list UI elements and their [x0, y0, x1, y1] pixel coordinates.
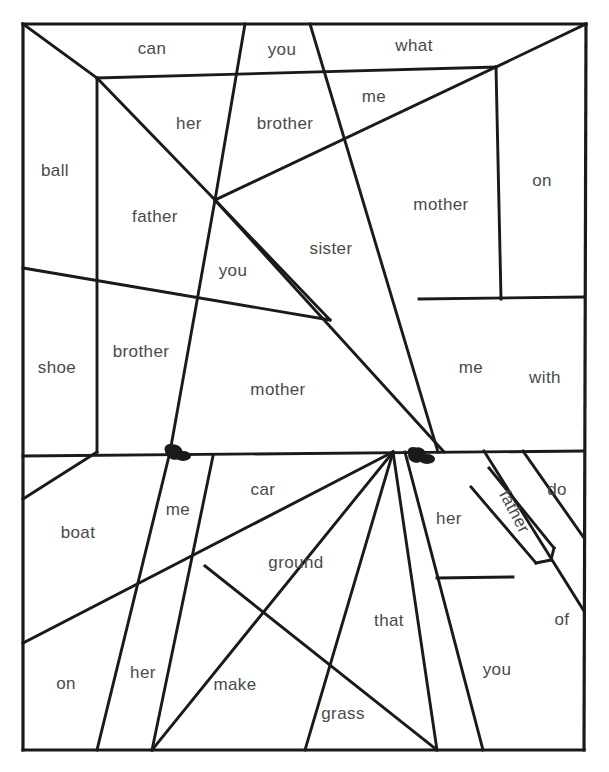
- grid-line-vert-brother2: [170, 200, 215, 452]
- word-cell-grass[interactable]: grass: [321, 704, 365, 724]
- word-cell-her-low2[interactable]: her: [130, 663, 156, 683]
- word-cell-me-lower[interactable]: me: [166, 500, 190, 520]
- grid-line-border-right: [584, 24, 586, 750]
- grid-line-horiz-right: [419, 297, 584, 299]
- word-cell-her-top[interactable]: her: [176, 114, 202, 134]
- word-cell-father1[interactable]: father: [132, 207, 178, 227]
- grid-line-tl-diagonal: [23, 24, 97, 78]
- word-cell-ball[interactable]: ball: [41, 161, 69, 181]
- grid-line-tl-diag-ext: [97, 78, 215, 200]
- word-cell-you-top[interactable]: you: [268, 40, 297, 60]
- grid-line-vert-mid-on: [496, 67, 501, 299]
- word-cell-her-low1[interactable]: her: [436, 509, 462, 529]
- word-cell-what[interactable]: what: [395, 36, 433, 56]
- grid-line-low-of-div: [484, 451, 584, 611]
- grid-line-horiz-mid: [23, 451, 584, 456]
- word-cell-make[interactable]: make: [213, 675, 256, 695]
- grid-line-low-her-right: [405, 452, 483, 750]
- word-cell-me-right[interactable]: me: [459, 358, 483, 378]
- grid-line-sister-right: [215, 200, 444, 452]
- worksheet-page: canyouwhatmeherbrotherballonmotherfather…: [0, 0, 609, 772]
- ink-blob-right: [406, 445, 435, 465]
- word-cell-me-top[interactable]: me: [362, 87, 386, 107]
- word-cell-sister[interactable]: sister: [309, 239, 352, 259]
- grid-line-low-that-div: [393, 452, 437, 750]
- word-cell-boat[interactable]: boat: [61, 523, 96, 543]
- grid-line-you-can-div: [215, 24, 245, 200]
- word-cell-ground[interactable]: ground: [268, 553, 323, 573]
- word-cell-mother1[interactable]: mother: [413, 195, 468, 215]
- word-cell-of[interactable]: of: [555, 610, 570, 630]
- grid-line-tr-diagonal: [496, 24, 586, 67]
- word-cell-car[interactable]: car: [251, 480, 276, 500]
- word-cell-brother2[interactable]: brother: [113, 342, 170, 362]
- grid-line-lowleft-diag: [23, 452, 97, 499]
- word-cell-can[interactable]: can: [138, 39, 167, 59]
- grid-line-low-you-div: [437, 577, 513, 578]
- word-cell-with[interactable]: with: [529, 368, 561, 388]
- grid-line-horiz-upper: [97, 67, 496, 78]
- word-cell-mother2[interactable]: mother: [250, 380, 305, 400]
- grid-line-low-me-div: [97, 452, 170, 750]
- word-cell-shoe[interactable]: shoe: [38, 358, 76, 378]
- word-cell-that[interactable]: that: [374, 611, 404, 631]
- word-cell-on-low[interactable]: on: [56, 674, 76, 694]
- word-cell-on-right[interactable]: on: [532, 171, 552, 191]
- word-cell-do[interactable]: do: [547, 480, 567, 500]
- grid-line-father-notch2: [536, 560, 551, 563]
- word-cell-brother1[interactable]: brother: [257, 114, 314, 134]
- grid-line-father-notch1: [551, 548, 554, 560]
- word-cell-you-mid[interactable]: you: [219, 261, 248, 281]
- word-cell-you-low[interactable]: you: [483, 660, 512, 680]
